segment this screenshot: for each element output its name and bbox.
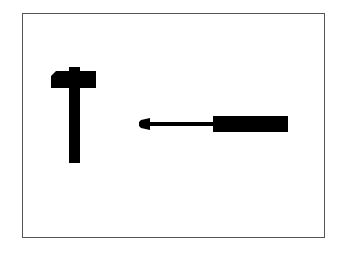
figure-canvas (0, 0, 342, 253)
screwdriver-icon (139, 116, 288, 132)
hammer-icon (51, 67, 96, 163)
